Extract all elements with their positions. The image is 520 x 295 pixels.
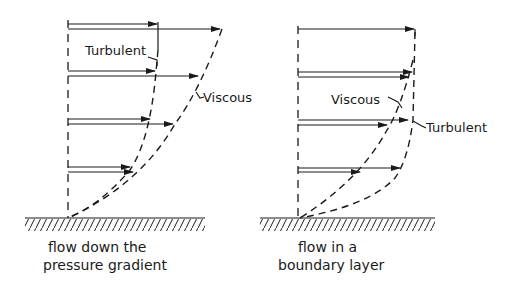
panel-boundary-layer: Viscous Turbulent flow in a boundary lay… — [260, 26, 487, 273]
caption-line-2: boundary layer — [278, 257, 385, 273]
turbulent-leader — [413, 121, 426, 128]
turbulent-leader — [148, 57, 157, 66]
wall-hatching — [260, 219, 435, 231]
caption-line-2: pressure gradient — [43, 257, 167, 273]
viscous-leader — [388, 97, 402, 108]
panel-pressure-gradient: Turbulent Viscous flow down the pressure… — [25, 20, 252, 273]
turbulent-arrows — [298, 72, 412, 168]
caption-line-1: flow in a — [298, 239, 357, 255]
caption-line-1: flow down the — [48, 239, 147, 255]
viscous-profile — [300, 60, 413, 218]
velocity-profile-diagram: Turbulent Viscous flow down the pressure… — [0, 0, 520, 295]
wall-hatching — [25, 219, 205, 231]
turbulent-label: Turbulent — [84, 43, 146, 58]
viscous-label: Viscous — [331, 92, 380, 107]
turbulent-label: Turbulent — [425, 120, 487, 135]
turbulent-profile — [68, 50, 158, 218]
viscous-label: Viscous — [203, 90, 252, 105]
